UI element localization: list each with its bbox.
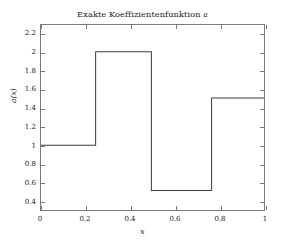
x-tick-label: 0.8	[214, 215, 225, 223]
plot-area	[40, 24, 265, 211]
y-tick-mark-right	[260, 202, 264, 203]
x-tick-mark	[266, 206, 267, 210]
x-tick-mark-top	[176, 25, 177, 29]
y-tick-mark	[41, 90, 45, 91]
figure-canvas: Exakte Koeffizientenfunktion a 0.40.60.8…	[0, 0, 285, 244]
x-tick-mark	[131, 206, 132, 210]
y-tick-mark	[41, 127, 45, 128]
y-tick-mark-right	[260, 109, 264, 110]
y-tick-mark-right	[260, 90, 264, 91]
y-tick-mark-right	[260, 127, 264, 128]
y-tick-mark-right	[260, 183, 264, 184]
chart-title: Exakte Koeffizientenfunktion a	[0, 9, 285, 19]
x-tick-label: 0.6	[169, 215, 180, 223]
chart-title-symbol: a	[203, 10, 208, 19]
y-tick-label: 0.6	[2, 179, 36, 187]
y-tick-label: 0.4	[2, 198, 36, 206]
y-tick-mark	[41, 53, 45, 54]
y-tick-label: 1.8	[2, 67, 36, 75]
y-tick-mark-right	[260, 146, 264, 147]
y-tick-mark	[41, 109, 45, 110]
y-tick-mark-right	[260, 71, 264, 72]
x-tick-mark-top	[41, 25, 42, 29]
y-tick-mark-right	[260, 34, 264, 35]
y-axis-label: a(x)	[9, 88, 18, 103]
y-axis-tick-labels: 0.40.60.811.21.41.61.822.2	[0, 24, 36, 211]
y-tick-mark	[41, 202, 45, 203]
x-tick-mark-top	[221, 25, 222, 29]
x-tick-label: 0.2	[79, 215, 90, 223]
chart-title-text: Exakte Koeffizientenfunktion	[77, 9, 200, 19]
data-series-line	[41, 52, 264, 191]
y-tick-label: 1.2	[2, 123, 36, 131]
y-tick-mark	[41, 146, 45, 147]
y-tick-label: 2.2	[2, 29, 36, 37]
y-tick-mark	[41, 34, 45, 35]
y-tick-mark	[41, 165, 45, 166]
x-tick-mark-top	[266, 25, 267, 29]
y-tick-label: 1.4	[2, 104, 36, 112]
y-tick-mark-right	[260, 165, 264, 166]
x-tick-label: 1	[263, 215, 267, 223]
y-tick-label: 0.8	[2, 160, 36, 168]
y-tick-label: 1	[2, 142, 36, 150]
y-tick-mark	[41, 71, 45, 72]
y-tick-label: 1.6	[2, 85, 36, 93]
x-axis-label: x	[0, 227, 285, 236]
y-tick-mark-right	[260, 53, 264, 54]
y-tick-label: 2	[2, 48, 36, 56]
x-tick-mark	[176, 206, 177, 210]
x-axis-tick-labels: 00.20.40.60.81	[40, 215, 265, 227]
x-tick-mark-top	[131, 25, 132, 29]
step-function-plot	[41, 25, 264, 210]
x-tick-mark	[41, 206, 42, 210]
x-tick-mark-top	[86, 25, 87, 29]
x-tick-label: 0.4	[124, 215, 135, 223]
y-tick-mark	[41, 183, 45, 184]
x-tick-label: 0	[38, 215, 42, 223]
x-tick-mark	[221, 206, 222, 210]
x-tick-mark	[86, 206, 87, 210]
